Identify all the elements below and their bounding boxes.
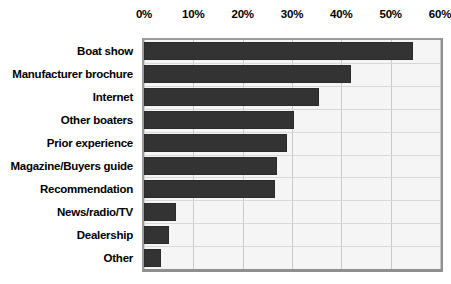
plot-area (142, 38, 443, 272)
horizontal-gridline (144, 246, 440, 247)
plot-inner (144, 40, 440, 269)
horizontal-gridline (144, 109, 440, 110)
bar (144, 203, 176, 221)
bar (144, 111, 294, 129)
bar (144, 157, 277, 175)
bar (144, 65, 351, 83)
y-tick-label: Manufacturer brochure (12, 68, 133, 80)
horizontal-gridline (144, 177, 440, 178)
x-tick-label: 30% (281, 8, 303, 20)
vertical-gridline (440, 40, 441, 269)
horizontal-gridline (144, 63, 440, 64)
y-tick-label: Dealership (77, 229, 133, 241)
bar (144, 134, 287, 152)
y-tick-label: Recommendation (40, 183, 133, 195)
y-tick-label: Other (104, 252, 133, 264)
bar (144, 88, 319, 106)
y-tick-label: Prior experience (47, 137, 133, 149)
y-tick-label: Internet (93, 91, 133, 103)
y-tick-label: Magazine/Buyers guide (10, 160, 133, 172)
y-tick-label: News/radio/TV (57, 206, 133, 218)
x-axis-tick-labels: 0%10%20%30%40%50%60% (0, 8, 448, 24)
x-tick-label: 20% (231, 8, 253, 20)
bar (144, 226, 169, 244)
bar (144, 180, 275, 198)
bar (144, 42, 413, 60)
horizontal-gridline (144, 200, 440, 201)
x-tick-label: 60% (429, 8, 451, 20)
y-tick-label: Boat show (77, 45, 133, 57)
bar (144, 249, 161, 267)
y-tick-label: Other boaters (61, 114, 133, 126)
x-tick-label: 0% (136, 8, 152, 20)
horizontal-gridline (144, 132, 440, 133)
x-tick-label: 10% (182, 8, 204, 20)
x-tick-label: 50% (379, 8, 401, 20)
y-axis-category-labels: Boat showManufacturer brochureInternetOt… (0, 38, 138, 272)
horizontal-gridline (144, 86, 440, 87)
horizontal-gridline (144, 223, 440, 224)
x-tick-label: 40% (330, 8, 352, 20)
horizontal-gridline (144, 155, 440, 156)
